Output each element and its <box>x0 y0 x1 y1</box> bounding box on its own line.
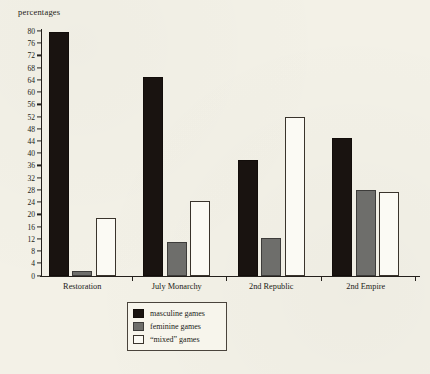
legend-item-feminine[interactable]: feminine games <box>133 320 220 333</box>
legend-swatch-masculine <box>133 309 144 318</box>
y-tick-label: 56 <box>27 100 35 109</box>
y-tick-label: 24 <box>27 198 35 207</box>
y-tick-label: 8 <box>31 247 35 256</box>
y-tick-label: 40 <box>27 149 35 158</box>
legend-label-mixed: “mixed” games <box>150 335 200 344</box>
bar-feminine-2nd-empire <box>356 190 376 276</box>
y-tick-label: 28 <box>27 185 35 194</box>
x-axis-group-tick <box>321 276 322 281</box>
y-tick-label: 20 <box>27 210 35 219</box>
bar-masculine-restoration <box>49 32 69 277</box>
x-axis-label-restoration: Restoration <box>63 282 101 291</box>
bar-mixed-restoration <box>96 218 116 276</box>
y-tick-label: 44 <box>27 137 35 146</box>
y-tick-label: 52 <box>27 112 35 121</box>
legend-swatch-mixed <box>133 335 144 344</box>
x-axis-end-tick <box>415 276 416 281</box>
y-tick-label: 16 <box>27 222 35 231</box>
chart-legend: masculine gamesfeminine games“mixed” gam… <box>127 302 227 351</box>
y-tick-label: 32 <box>27 173 35 182</box>
bar-feminine-july-monarchy <box>167 242 187 276</box>
y-tick-label: 68 <box>27 63 35 72</box>
x-axis-label-july-monarchy: July Monarchy <box>152 282 202 291</box>
x-axis-label-2nd-empire: 2nd Empire <box>346 282 385 291</box>
bar-masculine-2nd-republic <box>238 160 258 276</box>
bar-feminine-2nd-republic <box>261 238 281 276</box>
legend-item-mixed[interactable]: “mixed” games <box>133 333 220 346</box>
plot-area <box>41 30 419 276</box>
y-tick-label: 64 <box>27 75 35 84</box>
bar-mixed-2nd-empire <box>379 192 399 276</box>
y-tick-label: 12 <box>27 234 35 243</box>
bar-mixed-2nd-republic <box>285 117 305 276</box>
y-tick-label: 48 <box>27 124 35 133</box>
y-tick-label: 60 <box>27 88 35 97</box>
legend-item-masculine[interactable]: masculine games <box>133 307 220 320</box>
y-tick-label: 76 <box>27 39 35 48</box>
bar-masculine-2nd-empire <box>332 138 352 276</box>
y-tick-label: 0 <box>31 271 35 280</box>
y-tick-label: 36 <box>27 161 35 170</box>
x-axis-group-tick <box>132 276 133 281</box>
y-tick-label: 72 <box>27 51 35 60</box>
y-tick-label: 4 <box>31 259 35 268</box>
bar-masculine-july-monarchy <box>143 77 163 276</box>
x-axis-label-2nd-republic: 2nd Republic <box>249 282 293 291</box>
x-axis-group-tick <box>226 276 227 281</box>
chart-page: percentages 0481216202428323640444852566… <box>0 0 430 374</box>
y-tick-label: 80 <box>27 27 35 36</box>
legend-label-masculine: masculine games <box>150 309 205 318</box>
bar-feminine-restoration <box>72 271 92 276</box>
y-axis-title: percentages <box>18 7 60 17</box>
legend-label-feminine: feminine games <box>150 322 201 331</box>
bar-mixed-july-monarchy <box>190 201 210 276</box>
legend-swatch-feminine <box>133 322 144 331</box>
